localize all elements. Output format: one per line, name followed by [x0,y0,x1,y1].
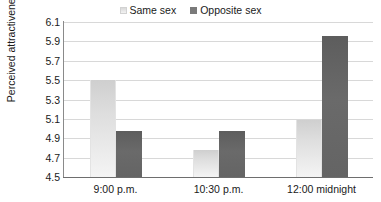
bar-groups [64,22,373,177]
legend-swatch-icon-same-sex [120,7,127,14]
y-axis-tick-label: 5.5 [26,75,60,86]
x-axis-ticks: 9:00 p.m.10:30 p.m.12:00 midnight [64,181,373,199]
legend-label-same-sex: Same sex [130,5,177,16]
y-axis-ticks: 6.15.95.75.55.35.14.94.74.5 [22,0,60,202]
x-axis-tick-label: 12:00 midnight [270,181,373,199]
y-axis-tick-label: 4.7 [26,152,60,163]
bar-group [167,22,270,177]
y-axis-title: Perceived attractiveness [5,0,19,120]
bar-opposite-sex [322,36,348,177]
bar-opposite-sex [219,131,245,177]
legend-item-same-sex: Same sex [120,5,177,16]
bar-same-sex [90,80,116,177]
y-axis-tick-label: 5.9 [26,36,60,47]
y-axis-tick-label: 4.5 [26,172,60,183]
legend-swatch-icon-opposite-sex [190,7,197,14]
bar-opposite-sex [116,131,142,178]
x-axis-tick-label: 10:30 p.m. [167,181,270,199]
legend-label-opposite-sex: Opposite sex [200,5,261,16]
y-axis-tick-label: 5.7 [26,56,60,67]
bar-group [64,22,167,177]
y-axis-tick-label: 4.9 [26,133,60,144]
bar-chart: Same sex Opposite sex Perceived attracti… [0,0,381,202]
bar-group [270,22,373,177]
legend-item-opposite-sex: Opposite sex [190,5,261,16]
bar-same-sex [296,120,322,177]
bar-same-sex [193,150,219,177]
y-axis-tick-label: 5.3 [26,94,60,105]
x-axis-tick-label: 9:00 p.m. [64,181,167,199]
y-axis-tick-label: 5.1 [26,114,60,125]
x-axis-line [63,177,373,178]
y-axis-tick-label: 6.1 [26,17,60,28]
